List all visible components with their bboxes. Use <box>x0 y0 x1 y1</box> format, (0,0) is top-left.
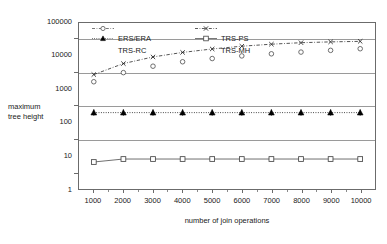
ytick-label-10: 10 <box>26 152 72 160</box>
y-axis-title-line1: maximum <box>8 102 41 111</box>
legend-marker-trs-mh <box>195 34 217 43</box>
legend-label-trs-ps: TRS-PS <box>221 34 249 43</box>
ytick-label-100000: 100000 <box>26 18 72 26</box>
legend-label-ers-era: ERS/ERA <box>118 34 151 43</box>
ytick-label-1000: 1000 <box>26 85 72 93</box>
x-tick-9000 <box>331 190 332 193</box>
legend-marker-trs-rc <box>92 34 114 43</box>
x-tick-8000 <box>302 190 303 193</box>
x-tick-minor <box>138 190 139 192</box>
chart-container: 100000 10000 1000 100 10 1 maximum tree … <box>0 0 387 244</box>
chart-legend: ERS/ERA TRS-RC TRS-PS TRS-MH <box>92 24 292 60</box>
x-tick-2000 <box>123 190 124 193</box>
series-trs-mh <box>91 157 362 165</box>
x-tick-minor <box>346 190 347 192</box>
x-tick-10000 <box>361 190 362 193</box>
legend-marker-ers-era <box>92 24 114 33</box>
x-tick-minor <box>227 190 228 192</box>
x-tick-minor <box>316 190 317 192</box>
x-tick-minor <box>287 190 288 192</box>
x-tick-minor <box>197 190 198 192</box>
x-tick-5000 <box>212 190 213 193</box>
y-axis-title-line2: tree height <box>8 112 43 121</box>
x-tick-minor <box>257 190 258 192</box>
x-tick-7000 <box>272 190 273 193</box>
legend-marker-trs-ps <box>195 24 217 33</box>
legend-label-trs-rc: TRS-RC <box>118 46 146 55</box>
ytick-label-1: 1 <box>26 186 72 194</box>
x-tick-label-10000: 10000 <box>341 196 381 205</box>
x-tick-minor <box>108 190 109 192</box>
x-axis-title: number of join operations <box>78 216 376 225</box>
y-axis-title: maximum tree height <box>8 102 43 121</box>
legend-label-trs-mh: TRS-MH <box>221 46 250 55</box>
x-tick-minor <box>167 190 168 192</box>
x-tick-1000 <box>93 190 94 193</box>
x-tick-4000 <box>182 190 183 193</box>
series-trs-rc <box>91 109 363 116</box>
ytick-label-10000: 10000 <box>26 51 72 59</box>
x-tick-6000 <box>242 190 243 193</box>
x-tick-3000 <box>153 190 154 193</box>
